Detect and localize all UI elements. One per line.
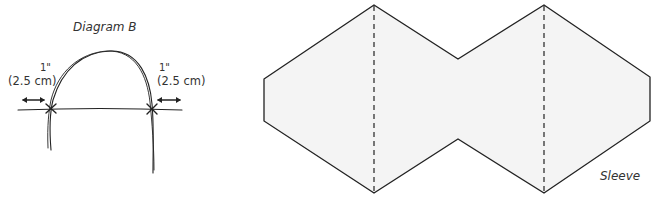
sleeve-pattern — [264, 5, 650, 193]
diagram-b-title: Diagram B — [73, 21, 137, 33]
right-measure-inches: 1" — [159, 63, 170, 73]
diagram-b-arch-inner — [48, 51, 154, 170]
left-measure-metric: (2.5 cm) — [8, 76, 56, 88]
diagram-b-baseline — [18, 109, 182, 111]
diagram-b-arch-outer — [50, 51, 153, 173]
left-measure-inches: 1" — [40, 63, 51, 73]
left-measure-arrow-icon — [22, 97, 45, 103]
right-measure-arrow-icon — [157, 97, 181, 103]
right-measure-metric: (2.5 cm) — [157, 76, 205, 88]
sleeve-label: Sleeve — [600, 170, 640, 182]
sleeve-outline — [264, 5, 650, 193]
